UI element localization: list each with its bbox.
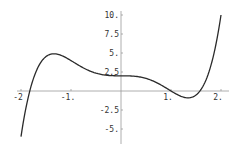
x-tick-label: -2: [13, 93, 23, 102]
y-tick-label: -2.5: [100, 106, 119, 115]
x-tick-label: -1.: [61, 93, 75, 102]
x-tick-label: 2.: [213, 93, 223, 102]
function-plot: -2-1.1.2. 10.7.55.2.5-2.5-5.: [0, 0, 238, 153]
y-tick-label: 7.5: [105, 30, 120, 39]
axes: [17, 11, 229, 144]
y-ticks: 10.7.55.2.5-2.5-5.: [100, 11, 123, 134]
y-tick-label: 5.: [109, 49, 119, 58]
y-tick-label: 10.: [105, 11, 119, 20]
x-tick-label: 1.: [163, 93, 173, 102]
y-tick-label: -5.: [105, 125, 119, 134]
